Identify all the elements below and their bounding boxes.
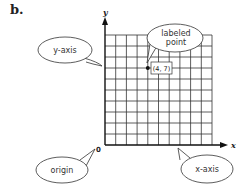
x-axis-name: x bbox=[230, 140, 236, 150]
x-axis-arrow-icon bbox=[220, 142, 228, 148]
point-marker-icon bbox=[146, 66, 150, 70]
y-axis-line bbox=[102, 17, 108, 145]
y-axis-name: y bbox=[102, 7, 109, 17]
y-axis-arrow-icon bbox=[102, 17, 108, 25]
origin-label: 0 bbox=[96, 146, 101, 154]
coordinate-grid bbox=[105, 35, 212, 145]
origin-callout: origin bbox=[36, 149, 95, 183]
point-coordinate-label: (4, 7) bbox=[153, 65, 170, 73]
origin-callout-text: origin bbox=[51, 166, 74, 175]
x-axis-callout-text: x-axis bbox=[195, 165, 219, 174]
y-axis-callout: y-axis bbox=[38, 37, 102, 66]
x-axis-callout: x-axis bbox=[178, 148, 233, 183]
labeled-point-line1: labeled bbox=[161, 29, 190, 38]
plotted-point: (4, 7) bbox=[146, 62, 172, 74]
panel-label: b. bbox=[10, 2, 24, 17]
y-axis-callout-text: y-axis bbox=[53, 46, 77, 55]
coordinate-plane-diagram: b. y x 0 y-axis labeled point (4, 7) ori… bbox=[0, 0, 247, 192]
labeled-point-line2: point bbox=[166, 38, 186, 47]
x-axis-line bbox=[105, 142, 228, 148]
